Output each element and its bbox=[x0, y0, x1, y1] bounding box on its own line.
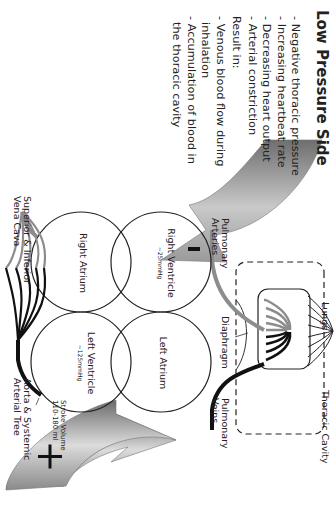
right-atrium-label: Right Atrium bbox=[77, 228, 88, 298]
thoracic-cavity-boundary bbox=[236, 262, 324, 434]
minus-icon bbox=[188, 247, 200, 251]
aorta-label: Aorta & Systemic Arterial Tree bbox=[11, 378, 32, 460]
result-item: - Accumulation of blood in bbox=[185, 16, 198, 176]
right-ventricle-label: Right Ventricle ~25mmHg bbox=[156, 228, 176, 298]
left-ventricle-label: Left Ventricle ~125mmHg bbox=[76, 326, 96, 400]
left-atrium-label: Left Atrium bbox=[157, 328, 168, 398]
thoracic-cavity-label: Thoracic Cavity bbox=[320, 390, 330, 464]
result-item: - Venous blood flow during bbox=[214, 16, 227, 176]
pulmonary-arterial-branches bbox=[264, 300, 290, 330]
vena-cava-label: Superior & Inferior Vena Cava bbox=[11, 196, 32, 284]
conditions-list: - Negative thoracic pressure - Increasin… bbox=[169, 16, 302, 176]
pulmonary-venous-branches bbox=[266, 332, 290, 360]
condition-item: - Decreasing heart output bbox=[260, 16, 273, 176]
result-heading: Result in: bbox=[230, 16, 243, 176]
stroke-volume-label: Stroke Volume 110-180 ml bbox=[51, 400, 66, 451]
circulation-diagram: Low Pressure Side - Negative thoracic pr… bbox=[0, 0, 336, 521]
pulmonary-arteries-label: Pulmonary Arteries bbox=[209, 218, 230, 269]
condition-item: - Negative thoracic pressure bbox=[289, 16, 302, 176]
condition-item: - Arterial constriction bbox=[246, 16, 259, 176]
lungs-label: Lungs bbox=[320, 302, 330, 330]
page-title: Low Pressure Side bbox=[313, 10, 330, 166]
result-item: inhalation bbox=[199, 16, 212, 176]
result-item: the thoracic cavity bbox=[170, 16, 183, 176]
diaphragm-label: Diaphragm bbox=[220, 316, 230, 369]
pulmonary-veins-label: Pulmonary Veins bbox=[209, 398, 230, 449]
condition-item: - Increasing heartbeat rate bbox=[275, 16, 288, 176]
